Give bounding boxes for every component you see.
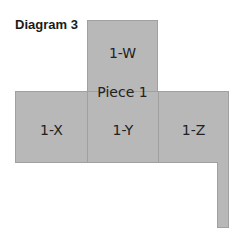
cell-1-w-label: 1-W xyxy=(109,45,136,61)
piece-label: Piece 1 xyxy=(87,84,158,100)
diagram-title: Diagram 3 xyxy=(15,17,78,32)
cell-1-y-label: 1-Y xyxy=(113,122,134,138)
tab-strip xyxy=(217,162,229,228)
cell-1-z-label: 1-Z xyxy=(182,122,206,138)
cell-1-z: 1-Z xyxy=(158,91,229,163)
cell-1-w: 1-W xyxy=(87,20,158,92)
cell-1-x: 1-X xyxy=(15,91,88,163)
cell-1-x-label: 1-X xyxy=(40,122,63,138)
cell-1-y: 1-Y xyxy=(87,91,159,163)
